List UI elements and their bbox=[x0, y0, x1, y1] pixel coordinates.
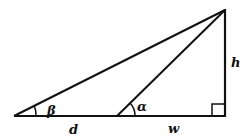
beta-label: β bbox=[46, 103, 56, 118]
beta-angle-arc bbox=[35, 107, 37, 117]
w-label: w bbox=[168, 121, 180, 136]
triangle-diagram: β α h d w bbox=[0, 0, 247, 137]
d-label: d bbox=[69, 122, 78, 137]
hypotenuse-beta bbox=[14, 10, 225, 116]
right-angle-marker bbox=[212, 104, 225, 116]
height-label: h bbox=[231, 55, 240, 70]
hypotenuse-alpha bbox=[117, 10, 225, 116]
alpha-angle-arc bbox=[130, 103, 135, 116]
alpha-label: α bbox=[137, 99, 147, 114]
